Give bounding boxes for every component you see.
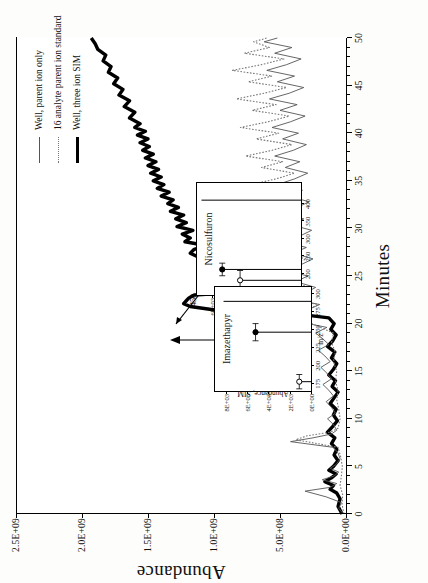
imazethapyr-arrow-head [170,336,180,344]
inset-annotation-tick: 450 [189,294,198,306]
